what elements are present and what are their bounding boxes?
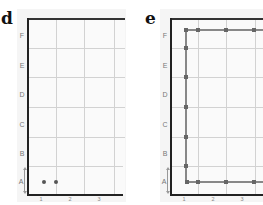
y-label-c: C bbox=[160, 121, 170, 128]
x-label-1: 1 bbox=[179, 197, 189, 203]
path-point bbox=[184, 164, 188, 168]
x-label-3: 3 bbox=[94, 197, 104, 203]
y-label-b: B bbox=[160, 150, 170, 157]
path-point bbox=[185, 180, 189, 184]
row-height-arrow-icon bbox=[167, 169, 168, 192]
axis-top-border bbox=[171, 18, 263, 20]
path-point bbox=[224, 180, 228, 184]
x-label-2: 2 bbox=[65, 197, 75, 203]
y-label-d: D bbox=[160, 91, 170, 98]
y-label-d: D bbox=[17, 91, 27, 98]
grid-line-horizontal bbox=[29, 166, 123, 167]
path-point bbox=[184, 28, 188, 32]
y-axis bbox=[170, 18, 172, 196]
grid-line-horizontal bbox=[29, 77, 125, 78]
y-label-c: C bbox=[17, 121, 27, 128]
row-height-arrow-icon bbox=[24, 169, 25, 192]
grid-line-horizontal bbox=[29, 48, 125, 49]
data-point bbox=[42, 180, 46, 184]
y-label-f: F bbox=[160, 32, 170, 39]
path-point bbox=[224, 28, 228, 32]
y-label-b: B bbox=[17, 150, 27, 157]
x-label-2: 2 bbox=[208, 197, 218, 203]
grid-line-horizontal bbox=[29, 107, 125, 108]
path-point bbox=[184, 46, 188, 50]
grid-line-horizontal bbox=[29, 137, 125, 138]
path-point bbox=[252, 28, 256, 32]
y-axis bbox=[27, 18, 29, 196]
panel-letter-d: d bbox=[1, 10, 13, 27]
x-label-3: 3 bbox=[237, 197, 247, 203]
axis-top-border bbox=[28, 18, 125, 20]
panel-letter-e: e bbox=[145, 10, 156, 27]
path-point bbox=[184, 105, 188, 109]
path-point bbox=[196, 28, 200, 32]
path-point bbox=[184, 135, 188, 139]
y-label-e: E bbox=[17, 62, 27, 69]
path-point bbox=[184, 75, 188, 79]
data-point bbox=[54, 180, 58, 184]
x-label-1: 1 bbox=[36, 197, 46, 203]
y-label-e: E bbox=[160, 62, 170, 69]
path-point bbox=[252, 180, 256, 184]
y-label-f: F bbox=[17, 32, 27, 39]
path-point bbox=[196, 180, 200, 184]
